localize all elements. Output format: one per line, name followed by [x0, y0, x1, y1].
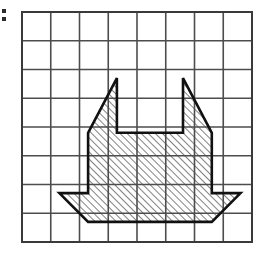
grid-figure-svg	[0, 0, 276, 262]
figure-container	[0, 0, 276, 262]
hatched-polygon-fill	[59, 78, 240, 222]
